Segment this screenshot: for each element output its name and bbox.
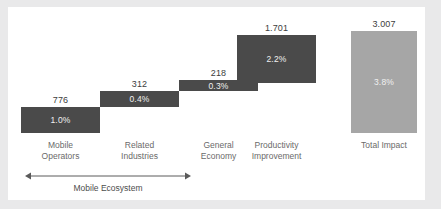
category-label-total-impact: Total Impact [351, 140, 417, 151]
bar-percent-label-total-impact: 3.8% [351, 77, 417, 87]
category-label-related-industries: Related Industries [100, 140, 179, 161]
category-label-line1: Total Impact [351, 140, 417, 151]
category-label-line1: Productivity [237, 140, 316, 151]
bar-value-label-productivity-improvement: 1.701 [237, 23, 316, 33]
category-label-line1: Mobile [21, 140, 100, 151]
bar-related-industries[interactable]: 0.4% [100, 91, 179, 107]
bar-mobile-operators[interactable]: 1.0% [21, 107, 100, 133]
waterfall-chart: 1.0% 776 0.4% 312 0.3% 218 2.2% 1.701 3.… [8, 7, 425, 200]
category-label-line2: Improvement [237, 151, 316, 162]
bar-value-label-related-industries: 312 [100, 79, 179, 89]
mobile-ecosystem-label: Mobile Ecosystem [25, 183, 191, 193]
bar-percent-label-mobile-operators: 1.0% [21, 115, 100, 125]
mobile-ecosystem-arrow-icon [25, 170, 191, 182]
bar-value-label-total-impact: 3.007 [351, 19, 417, 29]
chart-card: 1.0% 776 0.4% 312 0.3% 218 2.2% 1.701 3.… [8, 7, 425, 200]
bar-total-impact[interactable]: 3.8% [351, 31, 417, 133]
category-label-line1: Related [100, 140, 179, 151]
category-label-mobile-operators: Mobile Operators [21, 140, 100, 161]
bar-percent-label-productivity-improvement: 2.2% [237, 54, 316, 64]
bar-productivity-improvement[interactable]: 2.2% [237, 35, 316, 83]
category-label-productivity-improvement: Productivity Improvement [237, 140, 316, 161]
bar-percent-label-related-industries: 0.4% [100, 94, 179, 104]
category-label-line2: Operators [21, 151, 100, 162]
bar-value-label-mobile-operators: 776 [21, 95, 100, 105]
category-label-line2: Industries [100, 151, 179, 162]
